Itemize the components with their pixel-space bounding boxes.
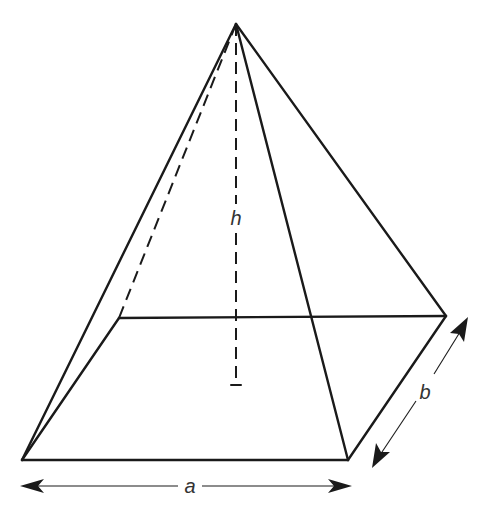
arrow-down-left-icon: [372, 443, 390, 468]
base-length-label: a: [184, 475, 195, 497]
base-left-edge: [22, 318, 119, 460]
edge-apex-front-right: [236, 24, 348, 460]
base-back-edge: [119, 316, 446, 318]
hidden-edge-apex-back-left: [119, 24, 236, 318]
edge-apex-back-right: [236, 24, 446, 316]
dimension-a: a: [20, 475, 352, 497]
height-label: h: [230, 207, 241, 229]
edge-apex-front-left: [22, 24, 236, 460]
arrow-up-right-icon: [450, 317, 468, 342]
dimension-b: b: [372, 317, 468, 468]
height-indicator: h: [226, 24, 246, 385]
base-right-edge: [348, 316, 446, 460]
pyramid-lateral-edges: [22, 24, 446, 460]
pyramid-diagram: h a b: [0, 0, 491, 517]
dimension-b-line-upper: [434, 332, 460, 374]
pyramid-base: [22, 316, 446, 460]
dimension-b-line-lower: [380, 401, 416, 455]
base-width-label: b: [419, 381, 430, 403]
